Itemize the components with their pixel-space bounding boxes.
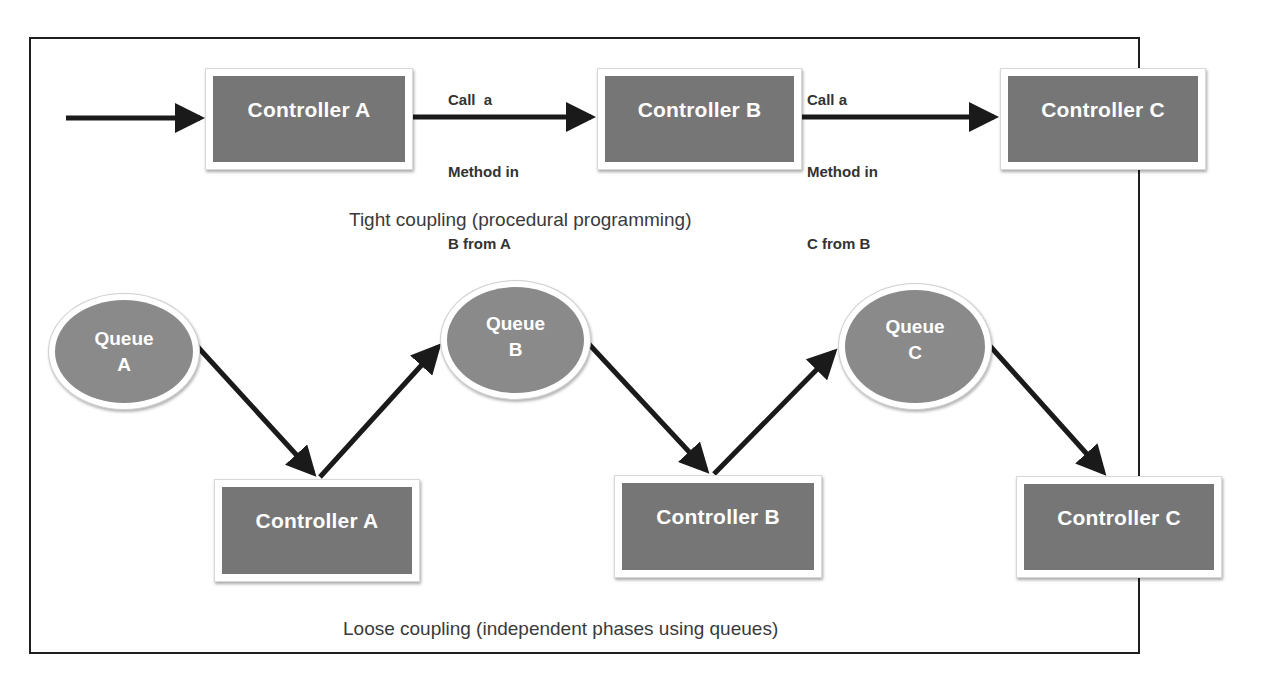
queue-id: B bbox=[509, 337, 523, 363]
annotation-line: B from A bbox=[448, 232, 519, 256]
annotation-line: Call a bbox=[448, 88, 519, 112]
annotation-line: Call a bbox=[807, 88, 878, 112]
queue-id: C bbox=[908, 340, 922, 366]
loose-controller-b: Controller B bbox=[614, 475, 822, 578]
controller-label: Controller C bbox=[1057, 506, 1181, 530]
annotation-line: C from B bbox=[807, 232, 878, 256]
caption-tight-coupling: Tight coupling (procedural programming) bbox=[349, 209, 692, 231]
queue-b: Queue B bbox=[440, 280, 591, 400]
queue-c: Queue C bbox=[838, 283, 992, 410]
queue-label: Queue bbox=[885, 314, 944, 340]
annotation-line: Method in bbox=[448, 160, 519, 184]
queue-label: Queue bbox=[486, 311, 545, 337]
queue-label: Queue bbox=[94, 326, 153, 352]
annotation-b-to-c: Call a Method in C from B bbox=[807, 40, 878, 280]
annotation-a-to-b: Call a Method in B from A bbox=[448, 40, 519, 280]
loose-controller-a: Controller A bbox=[214, 479, 420, 582]
tight-controller-a: Controller A bbox=[205, 68, 413, 170]
controller-label: Controller C bbox=[1041, 98, 1165, 122]
loose-controller-c: Controller C bbox=[1016, 476, 1222, 578]
controller-label: Controller A bbox=[256, 509, 379, 533]
queue-id: A bbox=[117, 352, 131, 378]
queue-a: Queue A bbox=[48, 293, 200, 410]
annotation-line: Method in bbox=[807, 160, 878, 184]
tight-controller-b: Controller B bbox=[597, 68, 802, 170]
caption-loose-coupling: Loose coupling (independent phases using… bbox=[343, 618, 778, 640]
tight-controller-c: Controller C bbox=[1000, 68, 1206, 170]
controller-label: Controller A bbox=[248, 98, 371, 122]
controller-label: Controller B bbox=[638, 98, 762, 122]
controller-label: Controller B bbox=[656, 505, 780, 529]
